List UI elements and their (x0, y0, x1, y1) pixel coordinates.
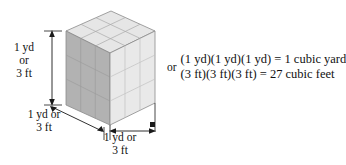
equation-cubic-feet: (3 ft)(3 ft)(3 ft) = 27 cubic feet (181, 67, 346, 82)
equations-block: or (1 yd)(1 yd)(1 yd) = 1 cubic yard (3 … (167, 52, 346, 82)
height-dimension-line (44, 30, 62, 106)
equation-cubic-yard: (1 yd)(1 yd)(1 yd) = 1 cubic yard (181, 52, 346, 67)
depth-label-line-2: 3 ft (8, 121, 80, 134)
width-dimension-label: 1 yd or 3 ft (84, 131, 156, 157)
depth-label-line-1: 1 yd or (8, 108, 80, 121)
height-label-line-2: or (4, 54, 44, 67)
depth-dimension-label: 1 yd or 3 ft (8, 108, 80, 134)
equations-connector-or: or (167, 61, 181, 74)
width-label-line-1: 1 yd or (84, 131, 156, 144)
width-label-line-2: 3 ft (84, 144, 156, 157)
height-label-line-1: 1 yd (4, 41, 44, 54)
equations-lines: (1 yd)(1 yd)(1 yd) = 1 cubic yard (3 ft)… (181, 52, 346, 82)
height-label-line-3: 3 ft (4, 67, 44, 80)
height-dimension-label: 1 yd or 3 ft (4, 41, 44, 80)
